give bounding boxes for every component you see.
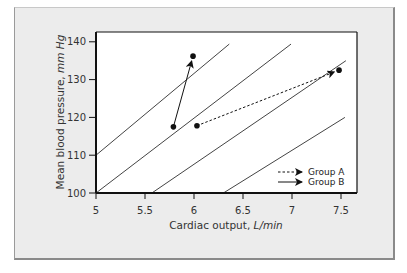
x-tick-label: 7.5	[333, 205, 349, 216]
y-tick-label: 100	[67, 188, 86, 199]
data-point	[336, 67, 342, 73]
x-tick-label: 6.5	[235, 205, 251, 216]
data-point	[171, 124, 177, 130]
x-tick-label: 5.5	[137, 205, 153, 216]
x-tick-label: 6	[191, 205, 197, 216]
y-tick-label: 110	[67, 150, 86, 161]
y-axis-ticks: 100110120130140	[67, 36, 96, 198]
y-tick-label: 120	[67, 112, 86, 123]
legend-label-group-a: Group A	[308, 167, 345, 177]
chart: 55.566.577.5 100110120130140 Cardiac out…	[0, 0, 407, 273]
x-axis-title: Cardiac output, L/min	[169, 219, 283, 231]
data-point	[190, 53, 196, 59]
x-axis-ticks: 55.566.577.5	[93, 193, 349, 216]
data-point	[194, 123, 200, 129]
legend-label-group-b: Group B	[308, 177, 344, 187]
y-tick-label: 130	[67, 74, 86, 85]
y-tick-label: 140	[67, 36, 86, 47]
y-axis-title: Mean blood pressure, mm Hg	[54, 34, 66, 189]
x-tick-label: 5	[93, 205, 99, 216]
x-tick-label: 7	[289, 205, 295, 216]
